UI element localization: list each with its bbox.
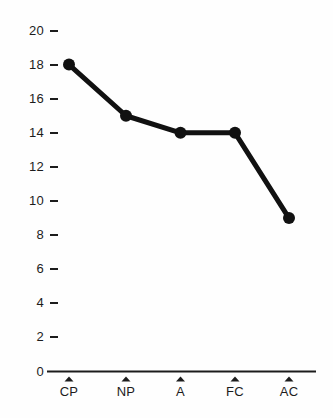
y-axis-tick-label: 8 (14, 227, 44, 242)
y-axis-tick-dash (50, 336, 58, 338)
y-axis-tick-label: 2 (14, 329, 44, 344)
y-axis-tick-dash (50, 234, 58, 236)
y-axis-tick-dash (50, 166, 58, 168)
series-line (69, 65, 289, 218)
data-point-marker (229, 127, 241, 139)
x-axis-tick-label: FC (215, 384, 255, 399)
x-axis-tick-triangle (65, 377, 74, 382)
y-axis-tick-dash (50, 64, 58, 66)
y-axis-tick-label: 18 (14, 57, 44, 72)
y-axis-tick-label: 14 (14, 125, 44, 140)
data-point-marker (120, 110, 132, 122)
data-point-marker (175, 127, 187, 139)
y-axis-tick-label: 12 (14, 159, 44, 174)
y-axis-tick-dash (50, 268, 58, 270)
y-axis-tick-dash (50, 302, 58, 304)
x-axis-tick-triangle (231, 377, 240, 382)
y-axis-tick-dash (50, 132, 58, 134)
x-axis-tick-label: CP (49, 384, 89, 399)
x-axis-tick-triangle (176, 377, 185, 382)
y-axis-tick-dash (50, 200, 58, 202)
x-axis-tick-label: A (161, 384, 201, 399)
x-axis-tick-label: AC (269, 384, 309, 399)
x-axis-group (47, 372, 316, 382)
y-axis-tick-dash (50, 30, 58, 32)
data-point-marker (63, 59, 75, 71)
x-axis-tick-label: NP (106, 384, 146, 399)
y-axis-tick-label: 0 (14, 364, 44, 379)
x-axis-tick-triangle (122, 377, 131, 382)
y-axis-tick-label: 4 (14, 295, 44, 310)
data-point-marker (283, 212, 295, 224)
y-axis-tick-label: 20 (14, 23, 44, 38)
y-axis-tick-label: 6 (14, 261, 44, 276)
line-chart: 02468101214161820 CPNPAFCAC (0, 0, 333, 418)
data-series-group (63, 59, 295, 224)
y-axis-tick-label: 16 (14, 91, 44, 106)
y-axis-tick-dash (50, 98, 58, 100)
x-axis-tick-marks (65, 377, 294, 382)
x-axis-tick-triangle (285, 377, 294, 382)
y-axis-tick-label: 10 (14, 193, 44, 208)
